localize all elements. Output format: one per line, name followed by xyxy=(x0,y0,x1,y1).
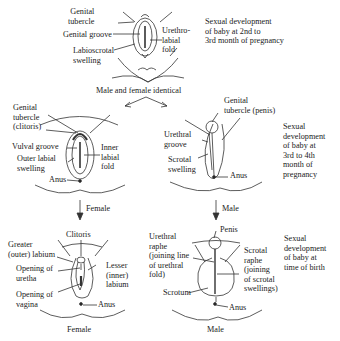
stage1-description: Sexual development of baby at 2nd to 3rd… xyxy=(205,17,284,46)
label-opening-vagina: Opening of vagina xyxy=(16,290,53,309)
stage3-description: Sexual development of baby at time of bi… xyxy=(284,234,326,272)
label-vulval-groove: Vulval groove xyxy=(12,142,59,152)
caption-female: Female xyxy=(67,325,91,335)
label-scrotal-swelling: Scrotal swelling xyxy=(168,155,196,174)
label-clitoris: Clitoris xyxy=(66,230,91,240)
label-penis: Penis xyxy=(220,225,238,235)
label-opening-urethra: Opening of uretha xyxy=(16,264,53,283)
caption-male: Male xyxy=(207,325,224,335)
label-scrotum: Scrotum xyxy=(163,288,191,298)
label-genital-groove-stage1: Genital groove xyxy=(63,30,112,40)
label-outer-labial-swelling: Outer labial swelling xyxy=(17,154,56,173)
label-genital-tubercle-clitoris: Genital tubercle (clitoris) xyxy=(13,103,41,132)
label-anus-stage3-male: Anus xyxy=(229,303,246,313)
label-urethral-raphe: Urethral raphe (joining line of urethral… xyxy=(149,232,189,280)
stage2-description: Sexual development of baby at 3rd to 4th… xyxy=(283,122,325,180)
label-anus-stage2-male: Anus xyxy=(230,171,247,181)
label-anus-stage2-female: Anus xyxy=(49,175,66,185)
label-genital-tubercle-penis: Genital tubercle (penis) xyxy=(224,96,275,115)
arrow-label-female: Female xyxy=(86,204,110,214)
label-inner-labial-fold: Inner labial fold xyxy=(101,143,119,172)
label-anus-stage3-female: Anus xyxy=(98,300,115,310)
label-lesser-labium: Lesser (inner) labium xyxy=(106,261,129,290)
arrow-label-male: Male xyxy=(222,204,239,214)
label-scrotal-raphe: Scrotal raphe (joining of scrotal swelli… xyxy=(244,246,278,294)
split-arrows xyxy=(125,97,167,107)
label-urethrolabial-fold: Urethro- labial fold xyxy=(162,26,190,55)
split-label: Male and female identical xyxy=(96,86,181,96)
label-labioscrotal-swelling: Labioscrotal swelling xyxy=(73,46,114,65)
label-urethral-groove: Urethral groove xyxy=(164,130,191,149)
label-genital-tubercle-stage1: Genital tubercle xyxy=(68,7,94,26)
stage2-male-drawing xyxy=(170,113,262,191)
label-greater-labium: Greater (outer) labium xyxy=(8,240,55,259)
